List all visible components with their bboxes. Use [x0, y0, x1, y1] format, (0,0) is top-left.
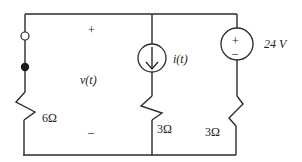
resistor-6-ohm-label: 6Ω: [42, 111, 57, 125]
filled-terminal-icon: [21, 63, 29, 71]
open-terminal-icon: [21, 32, 29, 40]
minus-sign: –: [87, 125, 95, 139]
resistor-3-ohm-right-icon: [229, 96, 243, 126]
resistor-6-ohm-icon: [16, 92, 35, 120]
resistor-3-ohm-right-label: 3Ω: [205, 125, 220, 139]
current-source-icon: [138, 44, 166, 72]
voltage-source-minus: –: [231, 46, 239, 60]
resistor-3-ohm-middle-label: 3Ω: [157, 122, 172, 136]
current-source-label: i(t): [173, 52, 188, 66]
plus-sign: +: [88, 23, 95, 37]
voltage-source-icon: + –: [221, 28, 253, 60]
voltage-source-label: 24 V: [264, 37, 288, 51]
left-branch: [16, 14, 35, 155]
resistor-3-ohm-middle-icon: [141, 96, 162, 120]
voltage-label: v(t): [80, 73, 97, 87]
right-branch: + –: [221, 14, 253, 155]
circuit-diagram: 6Ω + v(t) – i(t) 3Ω + – 24 V 3Ω: [0, 0, 302, 162]
